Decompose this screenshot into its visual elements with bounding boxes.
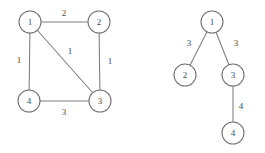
tree-edge-1-2 bbox=[190, 32, 207, 65]
node-1-label: 1 bbox=[28, 17, 33, 27]
panel-weighted-undirected-graph: 1 2 3 4 2 1 1 1 3 bbox=[17, 8, 113, 117]
tree-edge-1-3 bbox=[216, 32, 229, 65]
edge-group-left bbox=[29, 22, 100, 101]
node-2-label: 2 bbox=[97, 17, 102, 27]
edge-1-4 bbox=[29, 33, 30, 90]
tree-node-4-label: 4 bbox=[231, 128, 236, 138]
weight-label-4-3: 3 bbox=[62, 107, 67, 117]
weight-label-1-4: 1 bbox=[17, 55, 22, 65]
panel-spanning-tree: 1 2 3 4 3 3 4 bbox=[174, 11, 244, 144]
tree-weight-label-1-2: 3 bbox=[187, 38, 192, 48]
tree-node-1-label: 1 bbox=[210, 17, 215, 27]
node-4-label: 4 bbox=[27, 96, 32, 106]
weight-label-1-2: 2 bbox=[62, 8, 67, 18]
weight-label-1-3: 1 bbox=[68, 46, 73, 56]
figure-canvas: 1 2 3 4 2 1 1 1 3 bbox=[0, 0, 265, 153]
tree-weight-label-1-3: 3 bbox=[234, 38, 239, 48]
graph-diagram: 1 2 3 4 2 1 1 1 3 bbox=[0, 0, 265, 153]
edge-2-3 bbox=[99, 33, 100, 90]
tree-node-3-label: 3 bbox=[231, 70, 236, 80]
edge-1-3-diagonal bbox=[37, 30, 92, 93]
node-3-label: 3 bbox=[98, 96, 103, 106]
tree-weight-label-3-4: 4 bbox=[239, 101, 244, 111]
tree-node-2-label: 2 bbox=[183, 70, 188, 80]
weight-label-2-3: 1 bbox=[108, 56, 113, 66]
